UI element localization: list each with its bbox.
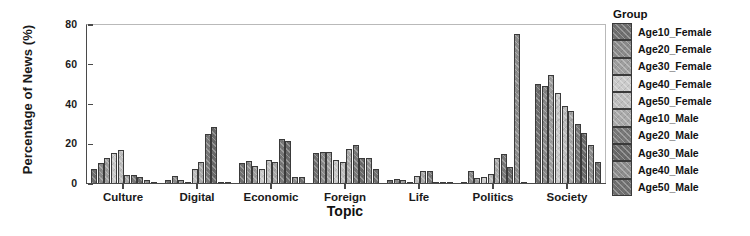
bar xyxy=(198,162,204,184)
bar xyxy=(326,152,332,184)
bar xyxy=(333,160,339,184)
x-tick-mark xyxy=(196,184,197,189)
bar xyxy=(313,153,319,184)
legend: Group Age10_FemaleAge20_FemaleAge30_Fema… xyxy=(612,8,750,196)
bar xyxy=(501,154,507,184)
bar-group xyxy=(91,25,156,184)
legend-label: Age50_Female xyxy=(638,95,712,107)
y-tick-label: 80 xyxy=(37,18,77,30)
bar xyxy=(246,161,252,184)
bar xyxy=(259,169,265,184)
bar xyxy=(548,75,554,184)
x-tick-label: Society xyxy=(522,191,612,203)
bar xyxy=(542,86,548,184)
legend-swatch xyxy=(612,40,632,57)
bar xyxy=(192,169,198,184)
legend-swatch xyxy=(612,144,632,161)
legend-item[interactable]: Age30_Female xyxy=(612,58,750,75)
bar xyxy=(211,127,217,184)
bar xyxy=(555,93,561,184)
bar xyxy=(285,141,291,184)
bar xyxy=(562,106,568,185)
y-axis-title: Percentage of News (%) xyxy=(20,10,35,190)
x-tick-mark xyxy=(492,184,493,189)
bar xyxy=(111,153,117,184)
bar xyxy=(366,158,372,184)
chart-figure: Percentage of News (%) 020406080 Culture… xyxy=(0,0,750,236)
bar xyxy=(535,84,541,184)
legend-swatch xyxy=(612,75,632,92)
x-tick-mark xyxy=(418,184,419,189)
legend-item[interactable]: Age10_Female xyxy=(612,23,750,40)
bar xyxy=(568,111,574,184)
y-tick-label: 0 xyxy=(37,177,77,189)
legend-label: Age20_Female xyxy=(638,43,712,55)
bar-group xyxy=(165,25,230,184)
legend-item[interactable]: Age40_Female xyxy=(612,75,750,92)
bar xyxy=(320,152,326,184)
legend-swatch xyxy=(612,161,632,178)
x-axis-title: Topic xyxy=(86,203,604,219)
legend-label: Age40_Male xyxy=(638,164,699,176)
bar xyxy=(494,158,500,184)
bar xyxy=(359,158,365,184)
bar xyxy=(575,124,581,184)
legend-label: Age10_Female xyxy=(638,26,712,38)
legend-item[interactable]: Age50_Female xyxy=(612,92,750,109)
bar xyxy=(91,169,97,184)
bar xyxy=(581,133,587,184)
bar xyxy=(239,163,245,184)
bar-group xyxy=(535,25,600,184)
legend-item[interactable]: Age10_Male xyxy=(612,109,750,126)
bar xyxy=(205,134,211,184)
bar xyxy=(118,150,124,184)
legend-label: Age10_Male xyxy=(638,112,699,124)
bar xyxy=(266,160,272,184)
legend-swatch xyxy=(612,58,632,75)
bar-group xyxy=(313,25,378,184)
plot-area: 020406080 xyxy=(86,24,606,184)
legend-label: Age30_Male xyxy=(638,147,699,159)
bar xyxy=(252,166,258,184)
legend-swatch xyxy=(612,92,632,109)
legend-swatch xyxy=(612,109,632,126)
bar xyxy=(507,167,513,184)
bar xyxy=(279,139,285,184)
legend-item[interactable]: Age40_Male xyxy=(612,161,750,178)
legend-item[interactable]: Age20_Female xyxy=(612,40,750,57)
x-tick-mark xyxy=(270,184,271,189)
legend-item[interactable]: Age50_Male xyxy=(612,179,750,196)
legend-label: Age20_Male xyxy=(638,129,699,141)
bar xyxy=(340,162,346,184)
legend-swatch xyxy=(612,23,632,40)
bar-group xyxy=(461,25,526,184)
x-axis-line: CultureDigitalEconomicForeignLifePolitic… xyxy=(86,183,606,184)
x-tick-mark xyxy=(344,184,345,189)
legend-items: Age10_FemaleAge20_FemaleAge30_FemaleAge4… xyxy=(612,23,750,196)
legend-item[interactable]: Age30_Male xyxy=(612,144,750,161)
x-tick-mark xyxy=(122,184,123,189)
bar xyxy=(98,163,104,184)
bar xyxy=(595,162,601,184)
legend-label: Age30_Female xyxy=(638,60,712,72)
bars-container xyxy=(87,25,605,184)
bar-group xyxy=(387,25,452,184)
legend-swatch xyxy=(612,127,632,144)
bar xyxy=(104,158,110,184)
bar xyxy=(514,34,520,184)
legend-label: Age40_Female xyxy=(638,78,712,90)
bar xyxy=(373,169,379,184)
y-tick-label: 20 xyxy=(37,137,77,149)
bar xyxy=(588,145,594,184)
bar xyxy=(346,149,352,184)
y-tick-label: 60 xyxy=(37,58,77,70)
bar-group xyxy=(239,25,304,184)
legend-item[interactable]: Age20_Male xyxy=(612,127,750,144)
legend-title: Group xyxy=(612,8,750,20)
legend-swatch xyxy=(612,179,632,196)
y-tick-label: 40 xyxy=(37,98,77,110)
legend-label: Age50_Male xyxy=(638,181,699,193)
x-tick-mark xyxy=(566,184,567,189)
bar xyxy=(353,145,359,184)
bar xyxy=(272,162,278,184)
